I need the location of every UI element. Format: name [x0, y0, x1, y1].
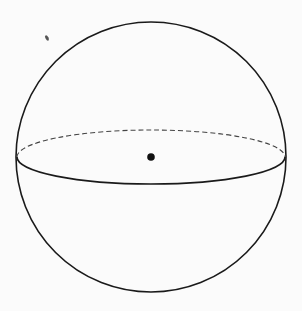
- sphere-diagram: [0, 0, 302, 311]
- speck-mark: [44, 35, 50, 42]
- center-point: [147, 153, 155, 161]
- equator-front-solid: [17, 157, 285, 184]
- equator-back-dashed: [17, 130, 285, 157]
